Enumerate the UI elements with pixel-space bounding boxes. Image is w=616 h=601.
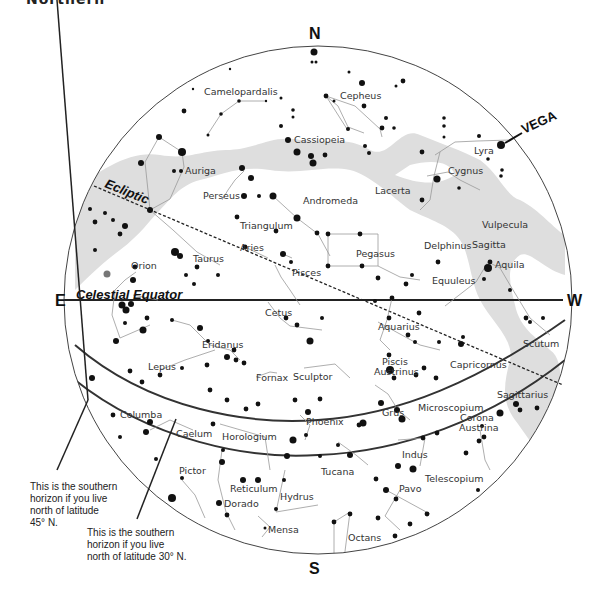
- constellation-label: Perseus: [203, 190, 240, 201]
- constellation-label: Pisces: [292, 267, 321, 278]
- note-line: This is the southern: [87, 527, 187, 539]
- constellation-label: Cygnus: [448, 165, 483, 176]
- constellation-label: Sculptor: [293, 371, 332, 382]
- constellation-label: Tucana: [320, 466, 354, 477]
- constellation-label: Cassiopeia: [294, 134, 345, 145]
- constellation-label: Pictor: [179, 465, 206, 476]
- constellation-label: Pavo: [399, 483, 422, 494]
- celestial-equator-label: Celestial Equator: [76, 287, 183, 302]
- note-45n-pointer: [57, 0, 88, 400]
- constellation-label: Phoenix: [306, 416, 344, 427]
- constellation-label: Lepus: [148, 361, 176, 372]
- constellation-label: Horologium: [222, 431, 277, 442]
- constellation-label: Equuleus: [432, 275, 476, 286]
- vega-pointer-line: [505, 133, 522, 143]
- constellation-label: Fornax: [256, 372, 289, 383]
- constellation-label: Hydrus: [280, 491, 314, 502]
- note-line: north of latitude: [30, 505, 117, 517]
- north-label: N: [309, 25, 321, 42]
- constellation-label: Octans: [348, 532, 381, 543]
- constellation-label: Caelum: [176, 428, 212, 439]
- constellation-label: Vulpecula: [482, 219, 528, 230]
- constellation-label: Lyra: [474, 145, 494, 156]
- constellation-label: Aquila: [495, 259, 524, 270]
- constellation-label: Orion: [131, 260, 157, 271]
- constellation-label: Aquarius: [378, 321, 420, 332]
- constellation-label: Taurus: [192, 253, 224, 264]
- constellation-label: Grus: [382, 407, 404, 418]
- constellation-label: Reticulum: [230, 483, 278, 494]
- constellation-label: Columba: [120, 409, 162, 420]
- constellation-label: Cepheus: [340, 90, 381, 101]
- constellation-label: Eridanus: [202, 339, 243, 350]
- constellation-label: Sagittarius: [497, 389, 548, 400]
- constellation-label: Lacerta: [375, 185, 411, 196]
- horizon-lines: [75, 320, 565, 456]
- constellation-label: Sagitta: [472, 239, 506, 250]
- south-label: S: [309, 560, 320, 577]
- note-45n-pointer-line: [57, 400, 88, 470]
- constellation-label: Triangulum: [239, 220, 293, 231]
- note-line: This is the southern: [30, 481, 117, 493]
- vega-label: VEGA: [519, 107, 559, 136]
- constellation-label: Pegasus: [356, 248, 395, 259]
- constellation-label: Capricornus: [450, 359, 507, 370]
- constellation-label: Austrina: [459, 422, 499, 433]
- constellation-label: Camelopardalis: [204, 86, 278, 97]
- constellation-label: Dorado: [224, 498, 259, 509]
- horizon-note-45n: This is the southern horizon if you live…: [30, 481, 117, 529]
- constellation-label: Cetus: [265, 307, 292, 318]
- constellation-label: Aries: [240, 242, 264, 253]
- note-line: horizon if you live: [30, 493, 117, 505]
- constellation-label: Mensa: [268, 524, 299, 535]
- constellation-label: Telescopium: [424, 473, 483, 484]
- note-line: north of latitude 30° N.: [87, 551, 187, 563]
- constellation-label: Andromeda: [303, 195, 358, 206]
- note-line: horizon if you live: [87, 539, 187, 551]
- note-30n-pointer-line: [137, 419, 176, 519]
- betelgeuse-star: [104, 271, 111, 278]
- constellation-label: Delphinus: [424, 240, 472, 251]
- constellation-label: Austrinus: [374, 366, 419, 377]
- east-label: E: [55, 292, 66, 309]
- constellation-label: Auriga: [185, 165, 216, 176]
- constellation-label: Scutum: [523, 338, 559, 349]
- horizon-note-30n: This is the southern horizon if you live…: [87, 527, 187, 563]
- constellation-label: Indus: [402, 449, 428, 460]
- west-label: W: [567, 292, 583, 309]
